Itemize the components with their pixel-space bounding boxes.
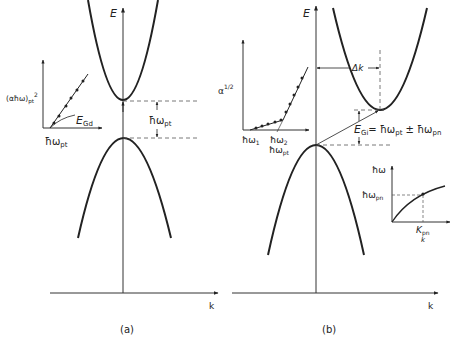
- energy-axis-label-a: E: [110, 7, 117, 20]
- absorption-inset-b: α1/2 ħω1 ħω2 ħωpt: [218, 40, 309, 157]
- energy-axis-label-b: E: [303, 7, 310, 20]
- caption-a: (a): [120, 324, 134, 335]
- svg-text:(αħω)pt2: (αħω)pt2: [6, 91, 38, 105]
- svg-text:ħω1: ħω1: [242, 135, 260, 146]
- inset-curve-a: [50, 115, 75, 128]
- k-axis-label-b: k: [428, 301, 434, 311]
- gap-label-a: ħωpt: [149, 115, 172, 128]
- valence-band-a: [78, 138, 171, 238]
- svg-text:ħωpt: ħωpt: [45, 136, 68, 149]
- svg-text:α1/2: α1/2: [218, 83, 234, 96]
- svg-text:ħω: ħω: [372, 165, 386, 175]
- delta-k-label: Δk: [351, 63, 364, 73]
- phonon-dispersion-curve: [392, 186, 445, 222]
- phonon-dispersion-inset: ħω ħωpn Kpn k: [362, 165, 450, 244]
- absorption-inset-a: (αħω)pt2 EGd ħωpt: [6, 60, 102, 149]
- svg-text:ħωpt: ħωpt: [269, 145, 290, 157]
- caption-b: (b): [322, 324, 336, 335]
- indirect-gap-equation: EGi= ħωpt ± ħωpn: [354, 123, 441, 137]
- panel-b: E k Δk EGi= ħωpt ± ħωpn: [218, 6, 450, 335]
- svg-text:ħωpn: ħωpn: [362, 190, 384, 202]
- panel-a: E k ħωpt: [6, 0, 218, 335]
- k-axis-label-a: k: [209, 301, 215, 311]
- band-diagram: E k ħωpt: [0, 0, 451, 343]
- svg-text:EGd: EGd: [76, 114, 93, 128]
- svg-text:k: k: [421, 236, 426, 244]
